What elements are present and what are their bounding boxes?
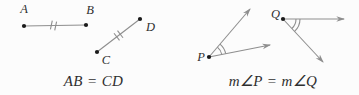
segments-equation: AB = CD <box>63 73 124 89</box>
segment-ab-line <box>24 25 86 26</box>
angle-q-label: Q <box>271 7 280 21</box>
angle-p-vertex-dot <box>207 55 211 59</box>
equations: AB = CD m∠P = m∠Q <box>63 73 318 89</box>
point-c-dot <box>95 50 99 54</box>
geometry-canvas: A B C D P Q AB = CD m∠P = m∠Q <box>0 0 359 95</box>
arc-mark <box>217 47 221 54</box>
angle-p <box>209 9 270 57</box>
point-labels: A B C D P Q <box>19 2 280 67</box>
angle-q <box>283 19 344 62</box>
angle-q-vertex-dot <box>281 17 285 21</box>
geometry-figure: A B C D P Q AB = CD m∠P = m∠Q <box>0 0 359 95</box>
tick-mark <box>118 31 123 38</box>
point-b-label: B <box>86 3 94 17</box>
point-c-label: C <box>102 53 111 67</box>
point-d-dot <box>138 17 142 21</box>
tick-mark <box>114 33 119 40</box>
segment-ab <box>24 21 86 31</box>
angles-equation: m∠P = m∠Q <box>229 73 318 89</box>
segment-cd <box>97 19 140 52</box>
point-a-dot <box>22 24 26 28</box>
angle-p-label: P <box>196 50 205 64</box>
segment-cd-line <box>97 19 140 52</box>
point-d-label: D <box>145 20 155 34</box>
angle-q-ray-lower <box>283 19 323 62</box>
point-a-label: A <box>19 2 28 16</box>
arc-mark <box>292 19 296 29</box>
point-b-dot <box>84 23 88 27</box>
